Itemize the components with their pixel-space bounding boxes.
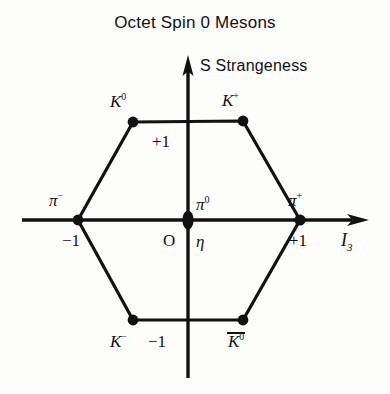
vertex-dot-kminus [128, 315, 139, 326]
particle-superscript-kplus: + [233, 90, 239, 101]
particle-superscript-piminus: − [58, 190, 64, 201]
particle-symbol-kminus: K [110, 332, 121, 351]
horizontal-axis-subscript: 3 [347, 241, 353, 253]
tick-label-i3-minus-one: −1 [62, 232, 80, 249]
vertex-dot-piminus [73, 215, 84, 226]
horizontal-axis-label: I3 [341, 231, 353, 249]
vertex-dot-piplus [294, 214, 305, 225]
particle-superscript-kminus: − [121, 331, 127, 342]
particle-symbol-k0: K [110, 92, 121, 111]
particle-symbol-piplus: π [288, 191, 297, 210]
meson-octet-figure: Octet Spin 0 Mesons S Strangeness I3 +1 … [0, 0, 390, 394]
k0bar-overline-group: K0 [228, 333, 244, 350]
particle-label-piplus: π+ [288, 192, 302, 209]
vertex-dot-k0bar [238, 315, 249, 326]
origin-label: O [163, 232, 175, 249]
tick-label-i3-plus-one: +1 [289, 232, 307, 249]
particle-superscript-pi0: 0 [205, 194, 210, 205]
particle-label-eta: η [196, 233, 204, 250]
particle-label-k0bar: K0 [228, 333, 244, 350]
particle-superscript-piplus: + [297, 190, 303, 201]
particle-label-piminus: π− [49, 192, 63, 209]
vertex-dot-pi0-eta [182, 211, 193, 230]
tick-label-s-minus-one: −1 [148, 333, 166, 350]
particle-label-kminus: K− [110, 333, 127, 350]
tick-label-s-plus-one: +1 [152, 133, 170, 150]
particle-symbol-k0bar: K [228, 332, 239, 351]
particle-symbol-kplus: K [222, 91, 233, 110]
particle-symbol-eta: η [196, 232, 204, 251]
particle-symbol-pi0: π [196, 195, 205, 214]
vertex-dot-kplus [238, 116, 249, 127]
vertical-axis-label: S Strangeness [200, 58, 308, 74]
particle-label-k0: K0 [110, 93, 126, 110]
particle-label-pi0: π0 [196, 196, 210, 213]
vertex-dot-k0 [128, 117, 139, 128]
particle-superscript-k0bar: 0 [239, 331, 244, 342]
particle-symbol-piminus: π [49, 191, 58, 210]
particle-superscript-k0: 0 [121, 91, 126, 102]
particle-label-kplus: K+ [222, 92, 239, 109]
